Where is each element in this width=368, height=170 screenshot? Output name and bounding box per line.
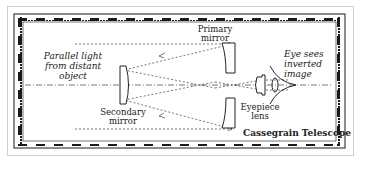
svg-text:Eye sees: Eye sees — [283, 49, 324, 59]
svg-text:inverted: inverted — [284, 59, 322, 69]
label-secondary-mirror: Secondary mirror — [100, 107, 146, 126]
diagram-title: Cassegrain Telescope — [243, 128, 351, 138]
svg-text:mirror: mirror — [109, 116, 138, 126]
label-parallel-light: Parallel light from distant object — [43, 51, 103, 81]
primary-mirror-bottom — [222, 98, 235, 128]
svg-text:mirror: mirror — [201, 33, 230, 43]
svg-text:lens: lens — [251, 111, 269, 121]
secondary-mirror — [120, 66, 129, 104]
eyepiece-lens — [256, 75, 266, 95]
svg-text:image: image — [284, 69, 312, 79]
svg-text:from distant: from distant — [44, 61, 101, 71]
label-eyepiece-lens: Eyepiece lens — [240, 102, 279, 121]
primary-mirror-top — [222, 43, 235, 73]
svg-text:object: object — [59, 71, 87, 81]
label-primary-mirror: Primary mirror — [198, 24, 233, 43]
svg-text:Parallel light: Parallel light — [43, 51, 103, 61]
cassegrain-diagram: Parallel light from distant object Prima… — [0, 0, 368, 170]
label-eye-sees: Eye sees inverted image — [283, 49, 324, 79]
